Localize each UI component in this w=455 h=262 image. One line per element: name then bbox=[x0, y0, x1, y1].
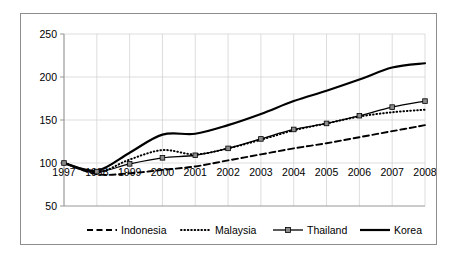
marker-thailand-2004 bbox=[291, 127, 296, 132]
marker-thailand-2002 bbox=[226, 146, 231, 151]
legend-label-indonesia: Indonesia bbox=[121, 224, 167, 236]
legend-label-korea: Korea bbox=[394, 224, 422, 236]
x-tick-label: 2000 bbox=[151, 166, 175, 178]
x-tick-label: 2002 bbox=[216, 166, 240, 178]
marker-thailand-1999 bbox=[127, 162, 132, 167]
x-tick-label: 2007 bbox=[381, 166, 405, 178]
y-axis-tick-labels: 50100150200250 bbox=[39, 28, 57, 212]
y-tick-label: 250 bbox=[39, 28, 57, 40]
data-point-markers bbox=[62, 99, 428, 174]
marker-thailand-2003 bbox=[259, 137, 264, 142]
y-tick-label: 50 bbox=[45, 200, 57, 212]
legend-marker-thailand bbox=[286, 228, 291, 233]
series-line-korea bbox=[64, 63, 425, 171]
data-series-group bbox=[64, 63, 425, 175]
marker-thailand-2007 bbox=[390, 105, 395, 110]
x-tick-label: 2005 bbox=[315, 166, 339, 178]
legend-label-malaysia: Malaysia bbox=[215, 224, 257, 236]
marker-thailand-1998 bbox=[95, 169, 100, 174]
marker-thailand-1997 bbox=[62, 161, 67, 166]
x-tick-label: 2004 bbox=[282, 166, 306, 178]
marker-thailand-2001 bbox=[193, 153, 198, 158]
y-tick-label: 150 bbox=[39, 114, 57, 126]
x-tick-label: 2006 bbox=[348, 166, 372, 178]
legend-label-thailand: Thailand bbox=[307, 224, 347, 236]
chart-figure: 50100150200250 1997199819992000200120022… bbox=[20, 13, 437, 245]
marker-thailand-2005 bbox=[324, 121, 329, 126]
x-tick-label: 2003 bbox=[249, 166, 273, 178]
x-tick-label: 2008 bbox=[413, 166, 436, 178]
marker-thailand-2000 bbox=[160, 156, 165, 161]
marker-thailand-2008 bbox=[423, 99, 428, 104]
chart-legend: IndonesiaMalaysiaThailandKorea bbox=[87, 224, 422, 236]
x-tick-label: 1997 bbox=[52, 166, 76, 178]
y-tick-label: 200 bbox=[39, 71, 57, 83]
line-chart: 50100150200250 1997199819992000200120022… bbox=[21, 14, 436, 244]
marker-thailand-2006 bbox=[357, 113, 362, 118]
